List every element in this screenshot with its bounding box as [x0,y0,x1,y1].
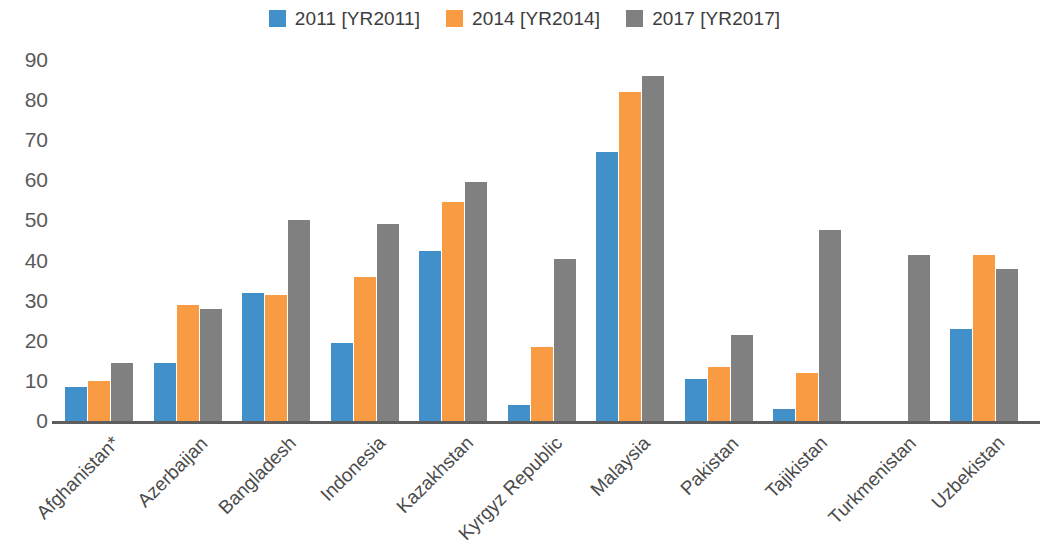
x-axis-tick-label: Turkmenistan [825,433,919,527]
bar-chart: 2011 [YR2011]2014 [YR2014]2017 [YR2017] … [0,0,1049,551]
x-axis-tick-label: Tajikistan [762,433,831,502]
x-axis-tick-label: Uzbekistan [928,433,1008,513]
x-axis-tick-label: Indonesia [317,433,389,505]
x-axis-tick-label: Bangladesh [215,433,299,517]
x-axis-tick-label: Malaysia [587,433,653,499]
x-axis-tick-label: Pakistan [677,433,742,498]
x-axis-tick-label: Azerbaijan [134,433,211,510]
x-axis-tick-label: Kazakhstan [393,433,477,517]
x-axis-labels: Afghanistan*AzerbaijanBangladeshIndonesi… [0,0,1049,551]
x-axis-tick-label: Afghanistan* [33,433,123,523]
